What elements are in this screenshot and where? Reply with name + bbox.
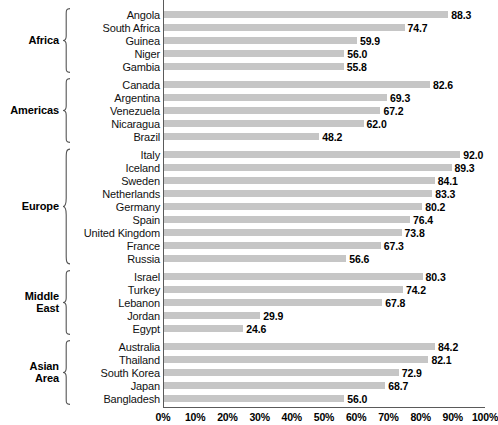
category-label: Sweden — [71, 175, 163, 187]
bar-row: 69.3 — [164, 91, 410, 104]
bar-value-label: 84.1 — [438, 175, 458, 187]
group-brace-icon — [62, 270, 71, 335]
bar-value-label: 62.0 — [367, 118, 387, 130]
category-row: South Africa — [71, 21, 163, 34]
category-label: Bangladesh — [71, 393, 163, 405]
category-label: Niger — [71, 48, 163, 60]
category-row: Italy — [71, 148, 163, 161]
category-label: Italy — [71, 149, 163, 161]
category-label: Angola — [71, 9, 163, 21]
category-label: Spain — [71, 214, 163, 226]
bar-value-label: 24.6 — [246, 323, 266, 335]
category-row: South Korea — [71, 366, 163, 379]
bar-row: 29.9 — [164, 309, 283, 322]
group-europe: EuropeItalyIcelandSwedenNetherlandsGerma… — [0, 148, 163, 265]
bar-row: 56.6 — [164, 252, 369, 265]
bar — [164, 299, 382, 306]
category-label: Germany — [71, 201, 163, 213]
bar-row: 80.2 — [164, 200, 445, 213]
category-label: Gambia — [71, 61, 163, 73]
bar-row: 55.8 — [164, 60, 367, 73]
x-tick-label: 50% — [314, 411, 334, 423]
bar-row: 84.1 — [164, 174, 458, 187]
bar — [164, 229, 402, 236]
category-label: Japan — [71, 380, 163, 392]
category-label: Nicaragua — [71, 118, 163, 130]
category-row: Guinea — [71, 34, 163, 47]
category-row: France — [71, 239, 163, 252]
category-label: Brazil — [71, 131, 163, 143]
bar-row: 74.2 — [164, 283, 426, 296]
group-middle-east: MiddleEastIsraelTurkeyLebanonJordanEgypt — [0, 270, 163, 335]
category-row: Argentina — [71, 91, 163, 104]
category-label: Australia — [71, 341, 163, 353]
bar-value-label: 56.6 — [349, 253, 369, 265]
group-label: Europe — [0, 201, 62, 213]
bar-row: 83.3 — [164, 187, 455, 200]
group-label-line: Area — [0, 373, 59, 385]
bar — [164, 242, 381, 249]
group-label-line: Asian — [0, 361, 59, 373]
group-brace-icon — [62, 8, 71, 73]
x-tick-label: 0% — [156, 411, 171, 423]
bar-value-label: 56.0 — [347, 48, 367, 60]
group-label: Americas — [0, 105, 62, 117]
category-row: Egypt — [71, 322, 163, 335]
bar — [164, 11, 448, 18]
bar — [164, 107, 380, 114]
category-row: Jordan — [71, 309, 163, 322]
category-label: South Africa — [71, 22, 163, 34]
category-row: Iceland — [71, 161, 163, 174]
category-row: Germany — [71, 200, 163, 213]
bar-value-label: 67.3 — [384, 240, 404, 252]
bar — [164, 395, 344, 402]
plot-area: 88.374.759.956.055.882.669.367.262.048.2… — [163, 0, 498, 408]
category-row: Netherlands — [71, 187, 163, 200]
category-row: Australia — [71, 340, 163, 353]
bar-value-label: 80.3 — [426, 271, 446, 283]
bar — [164, 120, 364, 127]
bar — [164, 151, 460, 158]
bar-row: 73.8 — [164, 226, 425, 239]
bar-row: 80.3 — [164, 270, 446, 283]
x-tick-label: 70% — [378, 411, 398, 423]
bar-value-label: 67.2 — [383, 105, 403, 117]
bar-value-label: 92.0 — [463, 149, 483, 161]
bar-value-label: 69.3 — [390, 92, 410, 104]
group-brace-icon — [62, 148, 71, 265]
bar-row: 76.4 — [164, 213, 433, 226]
x-tick-label: 100% — [472, 411, 498, 423]
x-tick-label: 40% — [282, 411, 302, 423]
category-row: Venezuela — [71, 104, 163, 117]
category-label: United Kingdom — [71, 227, 163, 239]
category-label: France — [71, 240, 163, 252]
category-label: Argentina — [71, 92, 163, 104]
group-africa: AfricaAngolaSouth AfricaGuineaNigerGambi… — [0, 8, 163, 73]
bar — [164, 81, 430, 88]
group-brace-icon — [62, 340, 71, 405]
category-row: Bangladesh — [71, 392, 163, 405]
category-label: South Korea — [71, 367, 163, 379]
bar-value-label: 89.3 — [455, 162, 475, 174]
category-name-list: AngolaSouth AfricaGuineaNigerGambia — [71, 8, 163, 73]
bar — [164, 356, 428, 363]
category-row: Brazil — [71, 130, 163, 143]
bar — [164, 24, 405, 31]
bar — [164, 369, 399, 376]
bar-value-label: 74.2 — [406, 284, 426, 296]
category-label: Egypt — [71, 323, 163, 335]
x-axis-line — [163, 407, 485, 408]
group-label: Africa — [0, 35, 62, 47]
bar-value-label: 67.8 — [385, 297, 405, 309]
bar — [164, 325, 243, 332]
bar-value-label: 59.9 — [360, 35, 380, 47]
bar-value-label: 55.8 — [347, 61, 367, 73]
category-label: Iceland — [71, 162, 163, 174]
category-name-list: IsraelTurkeyLebanonJordanEgypt — [71, 270, 163, 335]
bar-value-label: 84.2 — [438, 341, 458, 353]
category-label: Thailand — [71, 354, 163, 366]
bar-value-label: 76.4 — [413, 214, 433, 226]
bar-row: 92.0 — [164, 148, 483, 161]
bar — [164, 94, 387, 101]
category-label: Venezuela — [71, 105, 163, 117]
